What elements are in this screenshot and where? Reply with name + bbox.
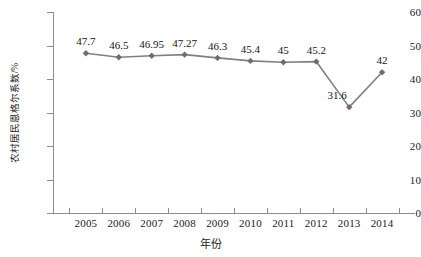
x-axis-title: 年份 [0,235,421,251]
data-point-2011 [280,59,286,65]
data-point-2008 [181,51,187,57]
data-point-2007 [149,53,155,59]
data-label-2012: 45.2 [286,45,346,56]
data-label-2013: 31.6 [307,90,367,101]
data-point-2006 [116,54,122,60]
data-point-2010 [247,58,253,64]
data-label-2014: 42 [352,55,412,66]
y-axis-title: 农村居民恩格尔系数/% [7,48,21,178]
data-point-2009 [214,55,220,61]
chart-screenshot: 0102030405060 20052006200720082009201020… [0,0,421,257]
